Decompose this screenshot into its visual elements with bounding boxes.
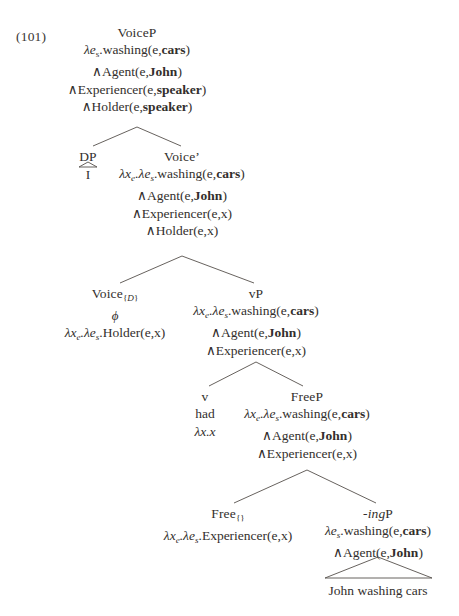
node-voiceP-denotation-line-4: ∧Holder(e,speaker)	[68, 98, 206, 115]
node-dp: DP	[79, 148, 97, 165]
node-voiceP-denotation-line-1: λes.washing(e,cars)	[68, 41, 206, 63]
node-vP-denotation-line-3: ∧Experiencer(e,x)	[193, 342, 318, 359]
node-ingP-label: -ingP	[325, 505, 431, 522]
node-vP-denotation-line-1: λxe.λes.washing(e,cars)	[193, 302, 318, 324]
node-dp-terminal: I	[86, 166, 91, 183]
node-ingP-terminal: John washing cars	[329, 582, 428, 599]
node-voiceP-label: VoiceP	[68, 24, 206, 41]
node-voicebar: Voice’ λxe.λes.washing(e,cars) ∧Agent(e,…	[119, 148, 244, 240]
node-voiceP-denotation-line-2: ∧Agent(e,John)	[68, 63, 206, 80]
node-voiceD-denotation-line-1: λxe.λes.Holder(e,x)	[65, 324, 166, 346]
node-free-feature-subscript: {}	[236, 513, 245, 523]
edge-vP-v	[209, 362, 256, 386]
example-number: (101)	[16, 29, 46, 45]
syntax-tree-figure: (101) VoiceP λes.washing(e,cars) ∧Agent(…	[0, 0, 459, 616]
node-v-denotation-line-1: λx.x	[194, 423, 215, 440]
node-ingP-terminal-text: John washing cars	[329, 582, 428, 599]
node-voiceD: Voice{D} ϕ λxe.λes.Holder(e,x)	[65, 285, 166, 346]
node-voiceP-denotation-line-3: ∧Experiencer(e,speaker)	[68, 81, 206, 98]
node-free: Free{} λxe.λes.Experiencer(e,x)	[164, 505, 292, 549]
node-voiceP: VoiceP λes.washing(e,cars) ∧Agent(e,John…	[68, 24, 206, 116]
edge-voiceP-voicebar	[137, 127, 181, 146]
edge-voicebar-voiceD	[120, 256, 182, 283]
node-v-exponent: had	[194, 405, 215, 422]
node-ingP-denotation-line-2: ∧Agent(e,John)	[325, 544, 431, 561]
edge-freeP-ingP	[307, 470, 376, 503]
node-voicebar-denotation-line-2: ∧Agent(e,John)	[119, 187, 244, 204]
node-ingP: -ingP λes.washing(e,cars) ∧Agent(e,John)	[325, 505, 431, 562]
node-voiceD-exponent: ϕ	[65, 307, 166, 324]
node-vP: vP λxe.λes.washing(e,cars) ∧Agent(e,John…	[193, 285, 318, 359]
node-voicebar-denotation-line-3: ∧Experiencer(e,x)	[119, 205, 244, 222]
node-voicebar-label: Voice’	[119, 148, 244, 165]
edge-voicebar-vP	[182, 256, 254, 283]
node-freeP-denotation-line-2: ∧Agent(e,John)	[244, 427, 369, 444]
node-voicebar-denotation-line-4: ∧Holder(e,x)	[119, 222, 244, 239]
node-v-label: v	[194, 388, 215, 405]
node-dp-terminal-text: I	[86, 166, 91, 183]
node-ingP-denotation-line-1: λes.washing(e,cars)	[325, 522, 431, 544]
edge-vP-freeP	[256, 362, 303, 386]
node-voiceD-label: Voice{D}	[65, 285, 166, 307]
node-vP-label: vP	[193, 285, 318, 302]
node-freeP-label: FreeP	[244, 388, 369, 405]
node-voicebar-denotation-line-1: λxe.λes.washing(e,cars)	[119, 165, 244, 187]
node-freeP-denotation-line-1: λxe.λes.washing(e,cars)	[244, 405, 369, 427]
node-freeP-denotation-line-3: ∧Experiencer(e,x)	[244, 445, 369, 462]
node-v: v had λx.x	[194, 388, 215, 440]
node-free-label: Free{}	[164, 505, 292, 527]
node-free-denotation-line-1: λxe.λes.Experiencer(e,x)	[164, 527, 292, 549]
node-vP-denotation-line-2: ∧Agent(e,John)	[193, 324, 318, 341]
node-freeP: FreeP λxe.λes.washing(e,cars) ∧Agent(e,J…	[244, 388, 369, 462]
edge-voiceP-dp	[93, 127, 137, 146]
node-dp-label: DP	[79, 148, 97, 165]
node-voiceD-feature-subscript: {D}	[123, 293, 138, 303]
edge-freeP-free	[234, 470, 307, 503]
